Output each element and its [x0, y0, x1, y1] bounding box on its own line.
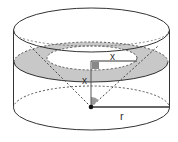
label-x-horizontal: x — [110, 51, 115, 62]
base-center-point — [89, 105, 94, 110]
cylinder-bottom-front-edge — [14, 108, 170, 130]
label-radius: r — [120, 110, 124, 122]
right-angle-marker-icon — [92, 62, 99, 69]
label-x-vertical: x — [82, 75, 87, 86]
cylinder-diagram: x x r — [0, 0, 178, 142]
